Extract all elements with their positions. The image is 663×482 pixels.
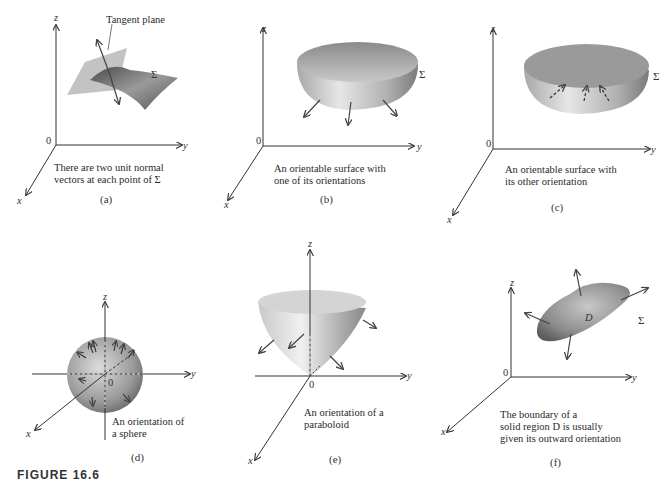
hemisphere-rim [297, 42, 418, 82]
x-axis-label: x [248, 455, 253, 466]
outward-normal-arrow [259, 340, 274, 353]
panel-a-sublabel: (a) [100, 193, 112, 205]
origin-label: 0 [309, 379, 314, 390]
panel-c-caption-line-2: its other orientation [505, 176, 587, 188]
figure-caption: FIGURE 16.6 [17, 468, 100, 482]
outward-normal-arrow [567, 334, 571, 359]
x-axis-label: x [17, 195, 22, 206]
panel-f-caption-line-2: solid region D is usually [500, 421, 603, 433]
x-axis-label: x [441, 426, 446, 437]
sigma-label: Σ [653, 70, 659, 82]
normal-arrow [304, 100, 320, 117]
x-axis-label: x [447, 214, 452, 225]
panel-b-caption-line-1: An orientable surface with [274, 163, 386, 175]
panel-d-caption-line-1: An orientation of [112, 416, 184, 428]
outward-normal-arrow [330, 356, 343, 369]
origin-label: 0 [503, 367, 508, 378]
panel-e-caption-line-1: An orientation of a [304, 407, 384, 419]
panel-d-sublabel: (d) [131, 451, 144, 463]
panel-b-caption-line-2: one of its orientations [274, 175, 365, 187]
hemisphere-rim [524, 44, 649, 88]
region-d-label: D [585, 312, 593, 323]
sigma-label: Σ [151, 68, 157, 80]
z-axis-label: z [54, 12, 58, 23]
panel-a-caption-line-2: vectors at each point of Σ [54, 174, 161, 186]
panel-c-caption-line-1: An orientable surface with [505, 164, 617, 176]
panel-f-sublabel: (f) [550, 456, 561, 468]
outward-normal-arrow [363, 320, 376, 328]
panel-b-sublabel: (b) [320, 193, 333, 205]
panel-e-caption-line-2: paraboloid [304, 419, 349, 431]
z-axis-label: z [491, 23, 495, 34]
solid-region-surface [537, 283, 630, 341]
panel-c-sublabel: (c) [551, 201, 563, 213]
panel-e-sublabel: (e) [329, 453, 341, 465]
z-axis-label: z [308, 238, 312, 249]
panel-f-caption-line-3: given its outward orientation [500, 433, 621, 445]
z-axis-label: z [510, 277, 514, 288]
sigma-label: Σ [419, 68, 425, 80]
z-axis-label: z [262, 23, 266, 34]
y-axis-label: y [183, 140, 188, 151]
x-axis [255, 376, 310, 460]
x-axis [228, 146, 263, 200]
z-axis-label: z [103, 291, 107, 302]
paraboloid-rim [258, 290, 366, 314]
origin-label: 0 [256, 135, 261, 146]
panel-f-graphic [447, 270, 648, 432]
y-axis-label: y [407, 370, 412, 381]
panel-f-caption-line-1: The boundary of a [500, 409, 577, 421]
y-axis-label: y [417, 141, 422, 152]
x-axis [453, 149, 493, 215]
panel-a-caption-line-1: There are two unit normal [54, 162, 164, 174]
origin-label: 0 [108, 377, 113, 388]
sigma-label: Σ [638, 314, 644, 326]
y-axis-label: y [191, 368, 196, 379]
x-axis [26, 145, 56, 195]
tangent-plane-leader [108, 24, 112, 50]
origin-label: 0 [486, 138, 491, 149]
tangent-plane-annotation: Tangent plane [106, 14, 165, 26]
origin-label: 0 [46, 135, 51, 146]
x-axis-label: x [26, 428, 31, 439]
y-axis-label: y [632, 372, 637, 383]
y-axis-label: y [651, 144, 656, 155]
panel-d-caption-line-2: a sphere [112, 428, 147, 440]
x-axis-label: x [224, 199, 229, 210]
